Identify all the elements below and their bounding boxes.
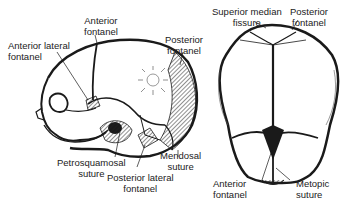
label-line: Posterior (165, 34, 203, 45)
label-line: fontanel (290, 17, 328, 28)
label-line: Anterior (213, 178, 247, 189)
label-line: Mendosal (160, 150, 201, 161)
label-line: Anterior lateral (8, 40, 70, 51)
label-line: Superior median (212, 6, 282, 17)
label-posterior-fontanel-lateral: Posterior fontanel (165, 34, 203, 56)
label-line: Metopic (296, 178, 329, 189)
label-line: Petrosquamosal (57, 157, 126, 168)
label-line: fontanel (165, 45, 203, 56)
label-posterior-fontanel-superior: Posterior fontanel (290, 6, 328, 28)
label-line: suture (296, 189, 329, 200)
label-line: fissure (212, 17, 282, 28)
label-line: Posterior lateral (107, 172, 174, 183)
label-posterior-lateral-fontanel: Posterior lateral fontanel (107, 172, 174, 194)
label-line: fontanel (8, 51, 70, 62)
label-line: fontanel (107, 183, 174, 194)
label-line: Posterior (290, 6, 328, 17)
label-mendosal-suture: Mendosal suture (160, 150, 201, 172)
label-anterior-lateral-fontanel: Anterior lateral fontanel (8, 40, 70, 62)
label-superior-median-fissure: Superior median fissure (212, 6, 282, 28)
superior-skull (218, 20, 338, 185)
label-metopic-suture: Metopic suture (296, 178, 329, 200)
label-anterior-fontanel-superior: Anterior fontanel (213, 178, 247, 200)
label-line: suture (160, 161, 201, 172)
label-anterior-fontanel-lateral: Anterior fontanel (84, 15, 118, 37)
label-line: Anterior (84, 15, 118, 26)
label-line: fontanel (213, 189, 247, 200)
label-line: fontanel (84, 26, 118, 37)
